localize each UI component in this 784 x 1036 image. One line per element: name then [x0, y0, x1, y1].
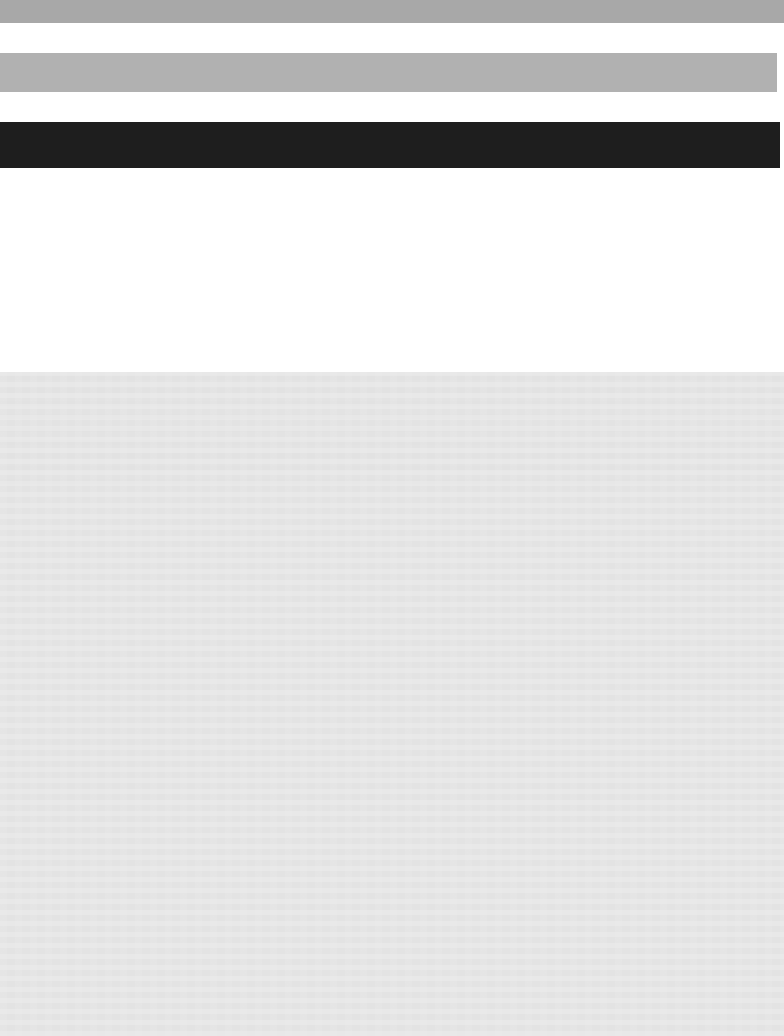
- toolbar-titlebar-divider: [0, 92, 784, 122]
- titlebar-right-edge: [780, 122, 784, 168]
- toolbar-bar[interactable]: [0, 53, 777, 92]
- toolbar-right-edge: [777, 53, 784, 92]
- content-whitespace-region: [0, 168, 784, 372]
- page-root: [0, 0, 784, 1036]
- titlebar-bar[interactable]: [0, 122, 780, 168]
- panel-texture: [0, 372, 784, 1036]
- header-toolbar-divider: [0, 23, 784, 53]
- content-panel[interactable]: [0, 372, 784, 1036]
- header-bar[interactable]: [0, 0, 784, 23]
- panel-texture-upper: [0, 372, 784, 492]
